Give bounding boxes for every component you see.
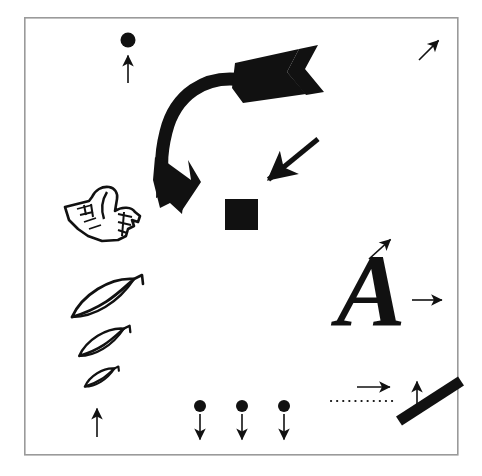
figure-illustration: A	[0, 0, 482, 476]
leaf-large-icon	[72, 275, 143, 317]
dot	[236, 400, 248, 412]
letter-a: A	[330, 233, 405, 348]
figure-canvas: A	[0, 0, 482, 476]
pointing-hand-icon	[65, 187, 140, 241]
curved-arrow-icon	[153, 45, 324, 214]
arrow-up-right-topright-icon	[419, 40, 439, 60]
dot-arrow-pair-2	[236, 400, 248, 440]
leaf-small-icon	[85, 366, 119, 386]
dot	[194, 400, 206, 412]
leaf-medium-icon	[79, 326, 130, 356]
square-black	[225, 199, 258, 230]
dot-top	[121, 33, 136, 48]
arrow-thick-down-left-icon	[269, 139, 319, 180]
dot-arrow-pair-1	[194, 400, 206, 440]
dot	[278, 400, 290, 412]
thick-diagonal-bar	[399, 381, 461, 421]
dot-arrow-pair-3	[278, 400, 290, 440]
